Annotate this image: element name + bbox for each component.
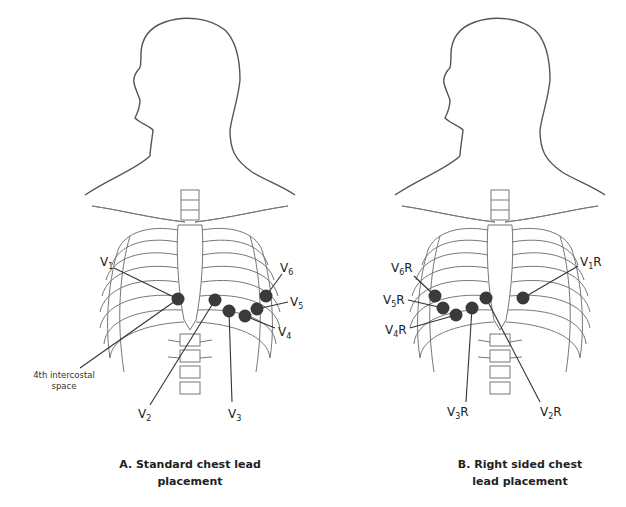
label-v6r: V6R xyxy=(391,261,413,277)
electrode-v3r xyxy=(466,302,479,315)
electrode-v5r xyxy=(437,302,450,315)
caption-panel-a: A. Standard chest lead placement xyxy=(90,456,290,490)
caption-a-line1: A. Standard chest lead xyxy=(90,456,290,473)
electrode-v2r xyxy=(480,292,493,305)
caption-a-line2: placement xyxy=(90,473,290,490)
label-v1: V1 xyxy=(100,255,113,271)
electrode-v3 xyxy=(223,305,236,318)
label-v5: V5 xyxy=(290,295,303,311)
annotation-line1: 4th intercostal xyxy=(33,370,95,380)
electrode-v5 xyxy=(251,303,264,316)
label-v2: V2 xyxy=(138,407,151,423)
electrode-v4r xyxy=(450,309,463,322)
electrode-v6r xyxy=(429,290,442,303)
electrode-v2 xyxy=(209,294,222,307)
label-v3r: V3R xyxy=(447,405,469,421)
annotation-line2: space xyxy=(52,381,77,391)
chest-lead-diagram: V1 V2 V3 V4 V5 V6 4th intercostal space … xyxy=(0,0,626,507)
label-v4: V4 xyxy=(278,325,291,341)
electrode-v4 xyxy=(239,310,252,323)
label-v6: V6 xyxy=(280,261,293,277)
caption-panel-b: B. Right sided chest lead placement xyxy=(420,456,620,490)
panel-a-figure xyxy=(85,18,295,394)
label-v5r: V5R xyxy=(383,293,405,309)
caption-b-line2: lead placement xyxy=(420,473,620,490)
label-v1r: V1R xyxy=(580,255,602,271)
caption-b-line1: B. Right sided chest xyxy=(420,456,620,473)
label-v4r: V4R xyxy=(385,323,407,339)
electrode-v1 xyxy=(172,293,185,306)
electrode-v1r xyxy=(517,292,530,305)
label-v3: V3 xyxy=(228,407,241,423)
label-v2r: V2R xyxy=(540,405,562,421)
panel-b-figure xyxy=(395,18,605,394)
electrode-v6 xyxy=(260,290,273,303)
panel-a-leads: V1 V2 V3 V4 V5 V6 4th intercostal space xyxy=(33,255,303,423)
